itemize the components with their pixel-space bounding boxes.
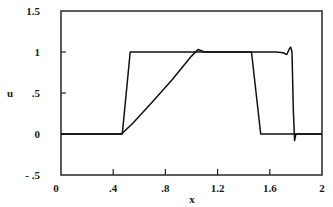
- x-tick-label: .4: [109, 182, 118, 194]
- y-tick-label: 0: [35, 128, 41, 140]
- y-tick-label: 1: [35, 46, 41, 58]
- y-tick-label: 1.5: [26, 5, 40, 17]
- x-tick-label: 1.2: [211, 182, 225, 194]
- x-tick-label: 1.6: [263, 182, 277, 194]
- y-tick-label: .5: [32, 87, 41, 99]
- y-tick-label: - .5: [25, 169, 40, 181]
- line-chart: 1.51.50- .5 0.4.81.21.62 u x: [0, 0, 333, 207]
- series-line-2: [61, 47, 322, 141]
- plot-frame: [61, 11, 322, 175]
- plot-border: [61, 11, 322, 175]
- x-axis-label: x: [189, 193, 195, 205]
- x-tick-label: 2: [319, 182, 325, 194]
- x-tick-label: .8: [161, 182, 170, 194]
- x-tick-label: 0: [53, 182, 59, 194]
- y-axis-ticks: 1.51.50- .5: [25, 5, 66, 181]
- series-line-1: [61, 52, 322, 134]
- x-axis-ticks: 0.4.81.21.62: [53, 169, 325, 194]
- series-group: [61, 47, 322, 141]
- y-axis-label: u: [7, 87, 13, 99]
